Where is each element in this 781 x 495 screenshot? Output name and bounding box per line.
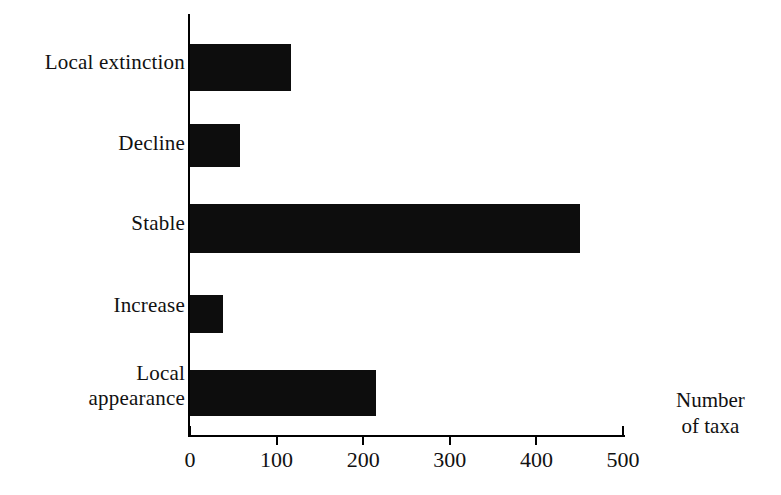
tick-label-200: 200 — [347, 447, 380, 473]
tick-300 — [449, 437, 451, 445]
tick-500 — [622, 426, 624, 436]
tick-0 — [189, 426, 191, 436]
bar-chart: Local extinction Decline Stable Increase… — [0, 0, 781, 495]
bar-decline — [190, 124, 240, 167]
tick-200 — [362, 437, 364, 445]
category-label-stable: Stable — [131, 211, 185, 236]
tick-label-300: 300 — [433, 447, 466, 473]
x-axis-title: Number of taxa — [676, 387, 745, 439]
tick-label-100: 100 — [260, 447, 293, 473]
bar-local-appearance — [190, 370, 376, 416]
category-label-local-extinction: Local extinction — [45, 50, 185, 75]
plot-area — [190, 14, 623, 436]
category-label-increase: Increase — [113, 293, 185, 318]
bar-stable — [190, 204, 580, 253]
bar-increase — [190, 295, 223, 333]
tick-label-400: 400 — [520, 447, 553, 473]
tick-400 — [535, 437, 537, 445]
tick-100 — [276, 437, 278, 445]
category-label-local-appearance: Local appearance — [89, 361, 185, 411]
category-label-decline: Decline — [118, 131, 185, 156]
bar-local-extinction — [190, 44, 291, 91]
tick-label-500: 500 — [607, 447, 640, 473]
tick-label-0: 0 — [185, 447, 196, 473]
